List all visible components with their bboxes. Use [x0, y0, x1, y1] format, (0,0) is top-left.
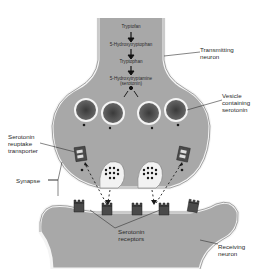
- label-receiving-neuron: Receivingneuron: [218, 243, 245, 257]
- label-reuptake-transporter: Serotoninreuptaketransporter: [8, 133, 38, 154]
- pathway-step-5: (serotonin): [110, 81, 152, 86]
- pathway-step-2: 5-Hydroxytryptophan: [104, 42, 158, 47]
- label-synapse: Synapse: [16, 177, 40, 184]
- label-vesicle: Vesiclecontainingserotonin: [222, 92, 250, 113]
- label-serotonin-receptors: Serotoninreceptors: [118, 228, 145, 242]
- label-transmitting-neuron: Transmittingneuron: [200, 46, 234, 60]
- pathway-step-1: Tryptofan: [110, 24, 152, 29]
- pathway-step-3: Tryptophan: [110, 59, 152, 64]
